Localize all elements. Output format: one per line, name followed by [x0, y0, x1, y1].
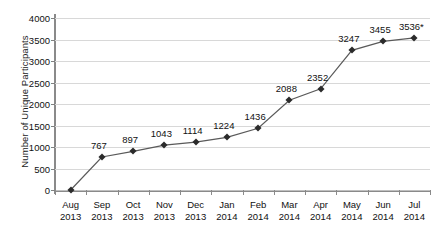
y-tick-label: 500	[34, 163, 50, 174]
x-tick-label: Jul2014	[404, 199, 425, 222]
x-tick-label: Jan2014	[216, 199, 237, 222]
y-tick-label: 3500	[29, 34, 50, 45]
x-tick-label: Oct2013	[123, 199, 144, 222]
x-tick-month: Feb	[250, 199, 266, 210]
x-tick-mark	[243, 190, 244, 195]
x-tick-label: Sep2013	[91, 199, 112, 222]
x-tick-month: Oct	[126, 199, 141, 210]
x-tick-month: Apr	[313, 199, 328, 210]
x-tick-mark	[211, 190, 212, 195]
series-polyline	[71, 38, 415, 190]
x-tick-year: 2014	[373, 211, 394, 223]
x-tick-month: Nov	[156, 199, 173, 210]
x-tick-mark	[430, 190, 431, 195]
series-line	[55, 18, 430, 190]
x-tick-month: Sep	[93, 199, 110, 210]
x-tick-label: Jun2014	[373, 199, 394, 222]
x-tick-label: Dec2013	[185, 199, 206, 222]
y-tick-label: 2000	[29, 99, 50, 110]
y-tick-label: 0	[45, 185, 50, 196]
x-tick-year: 2014	[404, 211, 425, 223]
data-point-label: 1043	[151, 128, 172, 139]
x-tick-month: Jul	[408, 199, 420, 210]
x-tick-mark	[399, 190, 400, 195]
line-chart: Number of Unique Participants 0500100015…	[0, 0, 435, 232]
x-tick-mark	[149, 190, 150, 195]
data-point-label: 3247	[338, 33, 359, 44]
y-tick-label: 1000	[29, 142, 50, 153]
y-tick-label: 3000	[29, 56, 50, 67]
x-tick-label: Mar2014	[279, 199, 300, 222]
x-tick-year: 2013	[185, 211, 206, 223]
x-tick-month: Mar	[281, 199, 297, 210]
x-tick-mark	[368, 190, 369, 195]
x-tick-label: Feb2014	[248, 199, 269, 222]
x-tick-mark	[86, 190, 87, 195]
x-tick-month: Jan	[219, 199, 234, 210]
y-axis-title: Number of Unique Participants	[19, 12, 30, 192]
data-point-label: 2352	[307, 72, 328, 83]
x-tick-month: Aug	[62, 199, 79, 210]
x-tick-year: 2014	[248, 211, 269, 223]
x-tick-mark	[336, 190, 337, 195]
x-tick-year: 2014	[310, 211, 331, 223]
data-point-label: 1114	[183, 125, 203, 136]
x-tick-year: 2014	[216, 211, 237, 223]
x-tick-month: May	[343, 199, 361, 210]
x-tick-label: Apr2014	[310, 199, 331, 222]
data-point-label: 767	[91, 140, 107, 151]
x-tick-year: 2013	[60, 211, 81, 223]
x-tick-month: Jun	[375, 199, 390, 210]
x-tick-year: 2014	[279, 211, 300, 223]
x-tick-mark	[118, 190, 119, 195]
data-point-label: 3536*	[399, 21, 424, 32]
x-tick-year: 2013	[154, 211, 175, 223]
data-point-label: 3455	[370, 24, 391, 35]
x-tick-year: 2014	[341, 211, 362, 223]
y-tick-label: 1500	[29, 120, 50, 131]
x-tick-label: Nov2013	[154, 199, 175, 222]
x-tick-month: Dec	[187, 199, 204, 210]
x-tick-label: Aug2013	[60, 199, 81, 222]
x-tick-year: 2013	[123, 211, 144, 223]
data-point-label: 1224	[213, 120, 234, 131]
x-tick-mark	[274, 190, 275, 195]
x-tick-mark	[180, 190, 181, 195]
plot-area: 05001000150020002500300035004000 Aug2013…	[55, 18, 430, 190]
y-tick-label: 4000	[29, 13, 50, 24]
x-tick-mark	[55, 190, 56, 195]
data-point-label: 2088	[276, 83, 297, 94]
data-point-label: 1436	[245, 111, 266, 122]
x-tick-label: May2014	[341, 199, 362, 222]
y-tick-label: 2500	[29, 77, 50, 88]
data-point-label: 897	[122, 134, 138, 145]
x-tick-mark	[305, 190, 306, 195]
x-tick-year: 2013	[91, 211, 112, 223]
